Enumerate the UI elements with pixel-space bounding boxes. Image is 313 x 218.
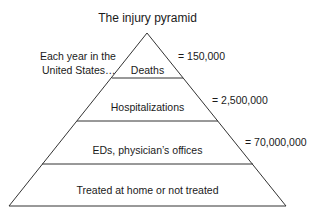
annotation-line-1: Each year in the: [40, 50, 116, 63]
count-hospitalizations: = 2,500,000: [212, 94, 268, 107]
level-eds-label: EDs, physician’s offices: [42, 144, 253, 157]
level-hospitalizations-label: Hospitalizations: [77, 101, 218, 114]
annotation-line-2: United States…: [42, 64, 116, 77]
count-eds: = 70,000,000: [245, 136, 307, 149]
count-deaths: = 150,000: [178, 50, 225, 63]
diagram-title: The injury pyramid: [0, 12, 295, 25]
level-deaths-label: Deaths: [112, 64, 183, 77]
level-home-label: Treated at home or not treated: [9, 184, 286, 197]
